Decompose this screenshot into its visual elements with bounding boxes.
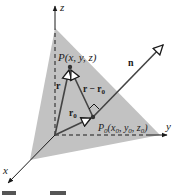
vector-n-label: n [128,57,134,68]
plane-normal-diagram: z y x P(x, y, z) n r r − r0 r0 P0(x0, y0… [0,0,177,195]
z-axis-label: z [59,1,65,13]
x-axis [8,135,55,183]
y-axis-label: y [165,120,171,132]
figure-caption-partial [2,191,66,195]
point-P0 [91,115,95,119]
vector-r-label: r [56,80,61,91]
point-P [68,65,72,69]
x-axis-label: x [2,164,8,176]
point-P-label: P(x, y, z) [57,51,97,64]
